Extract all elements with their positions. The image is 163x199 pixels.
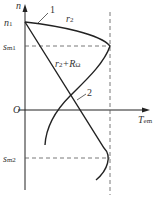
curve-2-label: r2+RΩ — [55, 59, 80, 69]
sm2-label: sm2 — [3, 154, 16, 164]
curve-1-label: r2 — [66, 14, 73, 24]
t-axis-arrow-icon — [142, 108, 150, 113]
leader-line-1 — [38, 13, 48, 23]
curve-1-r2 — [25, 22, 110, 145]
t-axis-label: Tem — [138, 115, 152, 125]
leader-line-2 — [77, 94, 86, 100]
n-axis-label: n — [16, 1, 21, 11]
torque-speed-diagram — [0, 0, 163, 199]
n-axis-arrow-icon — [23, 4, 28, 12]
origin-label: O — [13, 105, 20, 115]
sm1-label: sm1 — [3, 42, 16, 52]
curve-1-number: 1 — [50, 5, 55, 15]
n1-label: n1 — [4, 18, 13, 28]
curve-2-number: 2 — [87, 88, 92, 98]
